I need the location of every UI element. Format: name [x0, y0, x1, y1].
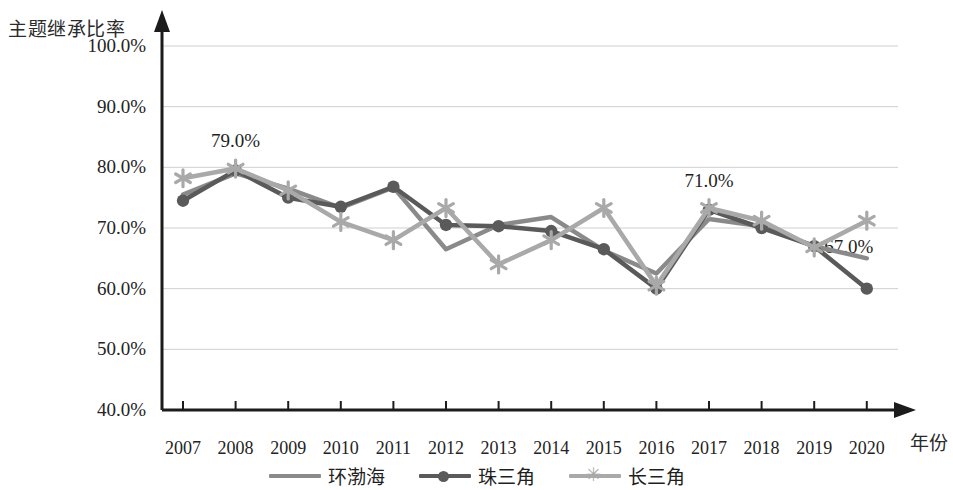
plot-canvas: [0, 0, 953, 490]
y-axis-arrow: [154, 10, 170, 32]
data-point-marker: [492, 220, 504, 232]
legend-circle-icon: [438, 471, 449, 482]
legend-entry-珠三角[interactable]: 珠三角: [419, 462, 535, 489]
chart-figure: 主题继承比率 年份 100.0%90.0%80.0%70.0%60.0%50.0…: [0, 0, 953, 490]
data-point-marker: [177, 195, 189, 207]
data-point-marker: [598, 243, 610, 255]
data-point-marker: [387, 181, 399, 193]
chart-legend: 环渤海珠三角✳长三角: [0, 462, 953, 489]
legend-entry-环渤海[interactable]: 环渤海: [269, 462, 385, 489]
data-point-marker: [335, 201, 347, 213]
legend-asterisk-icon: ✳: [586, 465, 602, 484]
legend-line: [269, 474, 321, 478]
legend-swatch: ✳: [569, 468, 621, 484]
legend-label: 长三角: [628, 462, 685, 489]
data-point-marker: [861, 282, 873, 294]
x-axis-arrow: [894, 402, 916, 418]
legend-label: 珠三角: [478, 462, 535, 489]
legend-swatch: [269, 468, 321, 484]
legend-swatch: [419, 468, 471, 484]
legend-label: 环渤海: [328, 462, 385, 489]
data-point-marker: [440, 219, 452, 231]
legend-entry-长三角[interactable]: ✳长三角: [569, 462, 685, 489]
